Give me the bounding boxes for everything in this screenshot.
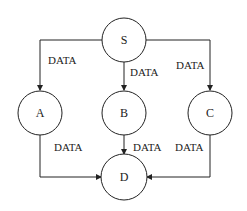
edge-s-to-c: DATA (146, 40, 210, 90)
node-s: S (102, 18, 146, 62)
data-flow-diagram: DATA DATA DATA DATA DATA DATA S A B C D (0, 0, 247, 211)
edge-label: DATA (130, 66, 159, 78)
node-label: B (120, 106, 128, 120)
edge-label: DATA (175, 141, 204, 153)
node-a: A (18, 91, 62, 135)
node-label: A (36, 106, 45, 120)
edge-label: DATA (176, 59, 205, 71)
node-label: D (120, 170, 129, 184)
node-d: D (101, 154, 147, 200)
edge-b-to-d: DATA (124, 134, 162, 154)
edge-label: DATA (133, 141, 162, 153)
node-label: C (206, 106, 214, 120)
edge-a-to-d: DATA (40, 135, 101, 177)
node-b: B (102, 91, 146, 135)
edge-s-to-b: DATA (124, 62, 159, 90)
edge-s-to-a: DATA (40, 40, 102, 90)
node-label: S (121, 33, 128, 47)
edge-label: DATA (48, 54, 77, 66)
edge-label: DATA (54, 141, 83, 153)
node-c: C (188, 91, 232, 135)
